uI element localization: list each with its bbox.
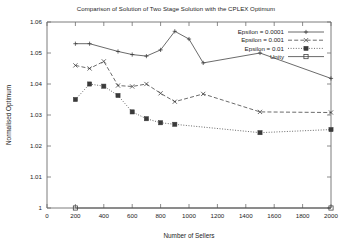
data-point-marker bbox=[116, 93, 120, 97]
x-tick-label: 1600 bbox=[267, 212, 281, 219]
data-point-marker bbox=[130, 110, 134, 114]
legend-label: Epsilon = 0.01 bbox=[245, 45, 285, 52]
data-point-marker bbox=[88, 82, 92, 86]
series-line bbox=[75, 84, 331, 133]
data-series bbox=[73, 206, 333, 210]
data-point-marker bbox=[116, 83, 120, 87]
y-tick-label: 1.02 bbox=[30, 142, 43, 149]
data-point-marker bbox=[201, 92, 205, 96]
x-tick-label: 0 bbox=[45, 212, 49, 219]
data-point-marker bbox=[144, 54, 148, 58]
x-axis-ticks: 0200400600800100012001400160018002000 bbox=[45, 22, 338, 219]
x-axis-title: Number of Sellers bbox=[163, 232, 214, 239]
data-point-marker bbox=[187, 37, 191, 41]
data-point-marker bbox=[329, 127, 333, 131]
chart-container: Comparison of Solution of Two Stage Solu… bbox=[0, 0, 352, 248]
data-point-marker bbox=[144, 82, 148, 86]
data-point-marker bbox=[201, 61, 205, 65]
x-tick-label: 2000 bbox=[324, 212, 338, 219]
x-tick-label: 1800 bbox=[296, 212, 310, 219]
data-series bbox=[73, 29, 333, 80]
data-point-marker bbox=[304, 46, 308, 50]
legend-label: Unity bbox=[270, 53, 285, 60]
y-tick-label: 1.01 bbox=[30, 173, 43, 180]
data-point-marker bbox=[329, 76, 333, 80]
legend-label: Epsilon = 0.0001 bbox=[238, 28, 285, 35]
series-line bbox=[75, 31, 331, 78]
data-point-marker bbox=[102, 84, 106, 88]
data-point-marker bbox=[304, 30, 308, 34]
data-point-marker bbox=[130, 52, 134, 56]
data-point-marker bbox=[173, 100, 177, 104]
series-line bbox=[75, 61, 331, 112]
data-point-marker bbox=[144, 117, 148, 121]
y-tick-label: 1 bbox=[39, 204, 43, 211]
data-series bbox=[73, 82, 333, 135]
x-tick-label: 800 bbox=[155, 212, 166, 219]
data-point-marker bbox=[159, 121, 163, 125]
data-series bbox=[73, 59, 333, 114]
data-point-marker bbox=[258, 131, 262, 135]
data-point-marker bbox=[173, 122, 177, 126]
data-point-marker bbox=[102, 59, 106, 63]
chart-legend: Epsilon = 0.0001Epsilon = 0.001Epsilon =… bbox=[238, 28, 324, 60]
y-tick-label: 1.03 bbox=[30, 111, 43, 118]
data-point-marker bbox=[116, 49, 120, 53]
data-point-marker bbox=[73, 97, 77, 101]
y-tick-label: 1.04 bbox=[30, 80, 43, 87]
x-tick-label: 1200 bbox=[211, 212, 225, 219]
plot-area: 11.011.021.031.041.051.06 02004006008001… bbox=[0, 0, 352, 248]
legend-label: Epsilon = 0.001 bbox=[241, 36, 284, 43]
data-point-marker bbox=[88, 42, 92, 46]
x-tick-label: 1000 bbox=[182, 212, 196, 219]
y-axis-title: Normalised Optimum bbox=[5, 85, 13, 145]
x-tick-label: 600 bbox=[127, 212, 138, 219]
y-axis-ticks: 11.011.021.031.041.051.06 bbox=[30, 18, 331, 211]
data-point-marker bbox=[73, 42, 77, 46]
y-tick-label: 1.06 bbox=[30, 18, 43, 25]
plot-frame bbox=[47, 22, 331, 208]
x-tick-label: 1400 bbox=[239, 212, 253, 219]
x-tick-label: 400 bbox=[99, 212, 110, 219]
y-tick-label: 1.05 bbox=[30, 49, 43, 56]
x-tick-label: 200 bbox=[70, 212, 81, 219]
data-point-marker bbox=[159, 91, 163, 95]
